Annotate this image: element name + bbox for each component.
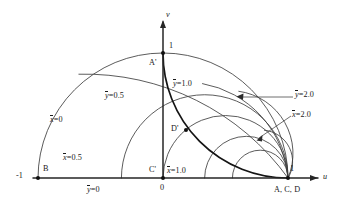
contour-label-xbar-2p0: x=2.0: [292, 111, 311, 119]
point-label-d-prime: D': [171, 125, 179, 133]
v-axis-label: v: [166, 11, 170, 19]
point-label-acd: A, C, D: [274, 186, 300, 194]
leader-arrow-xbar-2p0: [257, 135, 263, 142]
contour-label-xbar-1p0: x=1.0: [167, 167, 186, 175]
xbar-symbol: x: [167, 167, 171, 175]
contour-label-ybar-0p5: y=0.5: [105, 92, 124, 100]
contour-xbar-2p0: [205, 136, 288, 178]
conformal-mapping-figure: v u 1 -1 1 0 A' B C' D' A, C, D x=0 x=0.…: [0, 0, 352, 215]
point-label-b: B: [43, 165, 49, 173]
xbar-0p5-value: =0.5: [67, 153, 82, 162]
point-label-c-prime: C': [149, 166, 156, 174]
contour-label-ybar-1p0: y=1.0: [173, 80, 192, 88]
xbar-1p0-value: =1.0: [171, 166, 186, 175]
xbar-symbol: x: [292, 111, 296, 119]
leader-arrow-ybar-2p0: [237, 94, 244, 101]
contour-label-xbar-0: x=0: [50, 116, 63, 124]
ybar-0-value: =0: [91, 185, 100, 194]
ybar-symbol: y: [105, 92, 109, 100]
v-axis-arrowhead: [160, 20, 166, 28]
contour-ybar-0p5: [79, 74, 288, 178]
contour-label-ybar-2p0: y=2.0: [295, 91, 314, 99]
xbar-2p0-value: =2.0: [296, 110, 311, 119]
ybar-1p0-value: =1.0: [177, 79, 192, 88]
xbar-0-value: =0: [54, 115, 63, 124]
contour-xbar-0p5: [121, 95, 288, 178]
ybar-0p5-value: =0.5: [109, 91, 124, 100]
tick-label-origin: 0: [160, 184, 164, 192]
xbar-symbol: x: [50, 116, 54, 124]
tick-label-top-1: 1: [169, 42, 173, 50]
ybar-symbol: y: [173, 80, 177, 88]
contour-xbar-extra: [232, 150, 288, 178]
ybar-symbol: y: [87, 186, 91, 194]
point-label-a-prime: A': [149, 59, 157, 67]
contour-ybar-1p5: [203, 84, 289, 178]
ybar-symbol: y: [295, 91, 299, 99]
figure-canvas: [0, 0, 352, 215]
ybar-2p0-value: =2.0: [299, 90, 314, 99]
contour-label-xbar-0p5: x=0.5: [63, 154, 82, 162]
u-axis-arrowhead: [310, 175, 318, 181]
u-axis-label: u: [323, 173, 327, 181]
contour-label-ybar-0: y=0: [87, 186, 100, 194]
tick-label-right-1: 1: [290, 165, 294, 173]
xbar-symbol: x: [63, 154, 67, 162]
tick-label-left-neg1: -1: [16, 172, 23, 180]
